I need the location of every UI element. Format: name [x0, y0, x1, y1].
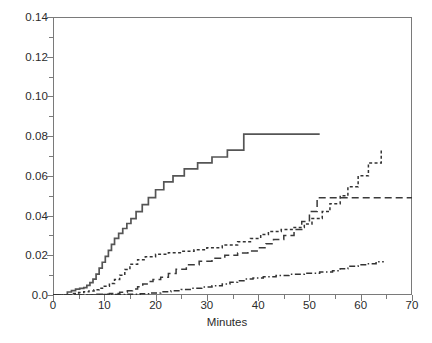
x-tick-label: 20 — [149, 299, 162, 311]
y-tick-label: 0.04 — [25, 210, 48, 222]
y-tick-label: 0.06 — [25, 170, 48, 182]
y-tick-label: 0.02 — [25, 249, 48, 261]
x-tick-minor — [284, 295, 285, 299]
y-tick-label: 0.10 — [25, 90, 48, 102]
caption-fragment — [12, 333, 192, 343]
series-layer — [53, 17, 412, 295]
x-tick-minor — [233, 295, 234, 299]
x-tick-minor — [130, 295, 131, 299]
y-tick-label: 0.08 — [25, 130, 48, 142]
x-axis-title: Minutes — [0, 316, 432, 328]
series-line-curve-3 — [53, 198, 412, 295]
plot-area — [53, 17, 412, 295]
x-tick-label: 60 — [354, 299, 367, 311]
x-axis-title-label: Minutes — [207, 316, 247, 328]
x-tick-minor — [386, 295, 387, 299]
y-axis: 0.00.020.040.060.080.100.120.14 — [0, 0, 48, 343]
chart-figure: 0.00.020.040.060.080.100.120.14 01020304… — [0, 0, 432, 343]
series-line-curve-1 — [53, 134, 320, 295]
x-tick-label: 0 — [50, 299, 56, 311]
y-tick-label: 0.0 — [32, 289, 48, 301]
series-line-curve-2 — [53, 150, 381, 295]
x-tick-minor — [335, 295, 336, 299]
x-tick-label: 70 — [406, 299, 419, 311]
x-tick-label: 50 — [303, 299, 316, 311]
x-tick-minor — [181, 295, 182, 299]
x-tick-label: 10 — [98, 299, 111, 311]
y-tick-label: 0.12 — [25, 51, 48, 63]
x-tick-label: 30 — [200, 299, 213, 311]
x-tick-label: 40 — [252, 299, 265, 311]
y-tick-label: 0.14 — [25, 11, 48, 23]
x-tick-minor — [79, 295, 80, 299]
